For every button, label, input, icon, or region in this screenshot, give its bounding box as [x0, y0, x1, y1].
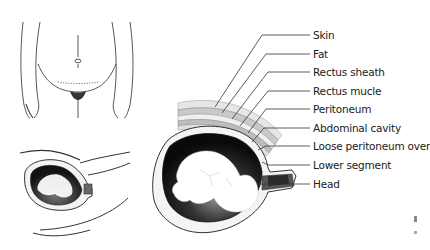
label-fat: Fat — [313, 48, 328, 60]
navel-icon — [75, 59, 81, 63]
label-skin: Skin — [313, 29, 335, 41]
leader-skin — [215, 35, 310, 107]
torso-front-view — [21, 22, 133, 118]
label-head: Head — [313, 178, 340, 190]
label-abdominal-cavity: Abdominal cavity — [313, 122, 401, 134]
leader-fat — [222, 54, 310, 113]
label-lower-segment: Lower segment — [313, 159, 391, 171]
incision-line — [58, 82, 98, 84]
label-rectus-sheath: Rectus sheath — [313, 66, 385, 78]
label-rectus-mucle: Rectus mucle — [313, 85, 381, 97]
uterus-side-small — [20, 150, 130, 235]
label-loose-peritoneum: Loose peritoneum over — [313, 140, 430, 152]
belly-curve — [38, 64, 116, 92]
torso-right-outline — [124, 22, 133, 118]
edge-mark — [414, 231, 417, 234]
uterus-layers-detail — [153, 100, 296, 232]
torso-left-outline — [21, 22, 30, 118]
edge-mark — [414, 216, 417, 222]
label-peritoneum: Peritoneum — [313, 103, 371, 115]
leader-lower-segment — [262, 162, 310, 165]
